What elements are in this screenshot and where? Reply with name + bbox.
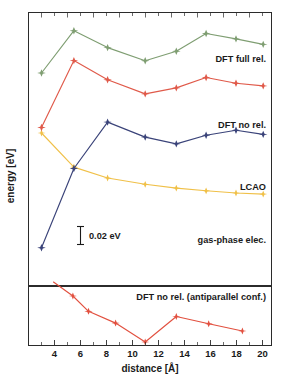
x-axis-title: distance [Å] xyxy=(121,362,178,374)
label-dft-no-rel: DFT no rel. xyxy=(218,120,266,130)
label-dft-full-rel: DFT full rel. xyxy=(215,54,266,64)
x-tick-label: 8 xyxy=(104,348,109,359)
scale-bar-label: 0.02 eV xyxy=(89,231,122,241)
x-tick-label: 12 xyxy=(153,348,164,359)
x-axis-tick-labels: 4 6 8 10 12 14 16 18 20 xyxy=(52,348,268,359)
label-antiparallel: DFT no rel. (antiparallel conf.) xyxy=(136,292,266,302)
x-tick-label: 10 xyxy=(127,348,138,359)
x-tick-label: 18 xyxy=(231,348,242,359)
x-tick-label: 6 xyxy=(78,348,83,359)
figure-container: DFT full rel. DFT no rel. LCAO gas-phase… xyxy=(0,0,283,384)
label-lcao: LCAO xyxy=(240,182,266,192)
label-gas-phase-elec: gas-phase elec. xyxy=(198,235,266,245)
x-tick-label: 16 xyxy=(205,348,216,359)
x-tick-label: 20 xyxy=(257,348,268,359)
x-tick-label: 14 xyxy=(179,348,190,359)
x-tick-label: 4 xyxy=(52,348,58,359)
y-axis-title: energy [eV] xyxy=(5,149,16,203)
energy-vs-distance-chart: DFT full rel. DFT no rel. LCAO gas-phase… xyxy=(0,0,283,384)
